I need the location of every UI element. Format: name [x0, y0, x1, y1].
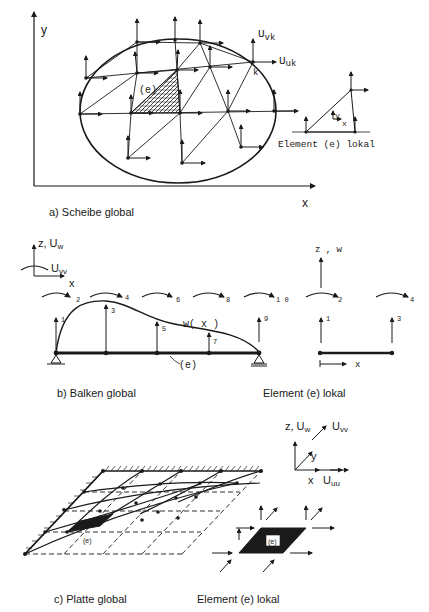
deformed-grid [25, 471, 261, 554]
u-vv-label: Uvv [51, 262, 67, 276]
caption-a: a) Scheibe global [49, 206, 134, 218]
caption-b-local: Element (e) lokal [263, 387, 346, 399]
local-z-w-label: z , w [315, 245, 343, 255]
panel-c-platte [23, 426, 348, 572]
dof-10: 1 0 [276, 296, 289, 304]
panel-a-scheibe [34, 12, 370, 186]
fem-diagram: y x (e) k Uvk Uuk y x Element (e) lokal … [0, 0, 429, 612]
z-uw-label-c: z, Uw [285, 420, 311, 434]
u-vk-label: Uvk [258, 28, 275, 43]
translation-dof-arrows [56, 305, 259, 352]
local-y-label: y [335, 111, 340, 120]
local-dof-4: 4 [410, 296, 414, 304]
supports [47, 355, 267, 366]
element-e-label-c: (e) [83, 537, 92, 545]
w-x-label: w( x ) [183, 319, 219, 330]
dof-7: 7 [213, 338, 217, 346]
dof-6: 6 [176, 296, 180, 304]
dof-4: 4 [125, 294, 129, 302]
x-label-b: x [69, 277, 75, 289]
local-dof-1: 1 [326, 315, 330, 323]
dof-5: 5 [162, 325, 166, 333]
element-e-filled [67, 514, 113, 532]
local-dof-3: 3 [397, 315, 401, 323]
dof-3: 3 [111, 307, 115, 315]
caption-c: c) Platte global [54, 593, 127, 605]
dof-2: 2 [76, 296, 80, 304]
local-triangle-element [292, 72, 370, 134]
local-element-caption: Element (e) lokal [278, 139, 375, 150]
dof-9: 9 [264, 315, 268, 323]
dof-1: 1 [61, 316, 65, 324]
panel-b-balken [21, 245, 408, 367]
x-label-c: x [308, 474, 314, 486]
element-e-label-b: (e) [179, 360, 197, 371]
local-x-label-b: x [355, 360, 360, 370]
y-axis-label: y [41, 23, 47, 37]
caption-c-local: Element (e) lokal [197, 593, 280, 605]
x-axis-label: x [302, 196, 308, 210]
u-uu-label-c: Uuu [323, 474, 340, 488]
node-k-label: k [253, 68, 258, 78]
z-uw-label: z, Uw [38, 237, 64, 251]
rotation-dof-arrows [42, 293, 408, 297]
dof-8: 8 [226, 296, 230, 304]
y-label-c: y [311, 450, 317, 462]
local-dof-2: 2 [338, 296, 342, 304]
u-uk-label: Uuk [279, 55, 296, 69]
local-x-label: x [342, 119, 347, 128]
local-element-e-label-c: (e) [268, 538, 277, 546]
u-vv-label-c: Uvv [332, 420, 348, 434]
element-e-label: (e) [139, 85, 157, 96]
caption-b: b) Balken global [57, 387, 136, 399]
